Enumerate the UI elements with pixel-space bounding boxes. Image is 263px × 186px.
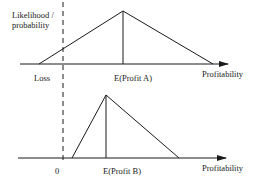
x-axis-label-b: Profitability [202,164,243,173]
expected-profit-b-label: E(Profit B) [103,167,141,176]
loss-label: Loss [34,74,50,83]
y-axis-label-line1: Likelihood / [12,11,54,20]
distribution-b [72,95,179,158]
expected-profit-a-label: E(Profit A) [114,74,152,83]
x-axis-label-a: Profitability [202,70,243,79]
zero-label: 0 [55,167,59,176]
distribution-a [39,11,213,64]
profitability-diagram: Likelihood / probability Loss E(Profit A… [0,0,263,186]
y-axis-label-line2: probability [12,21,49,30]
